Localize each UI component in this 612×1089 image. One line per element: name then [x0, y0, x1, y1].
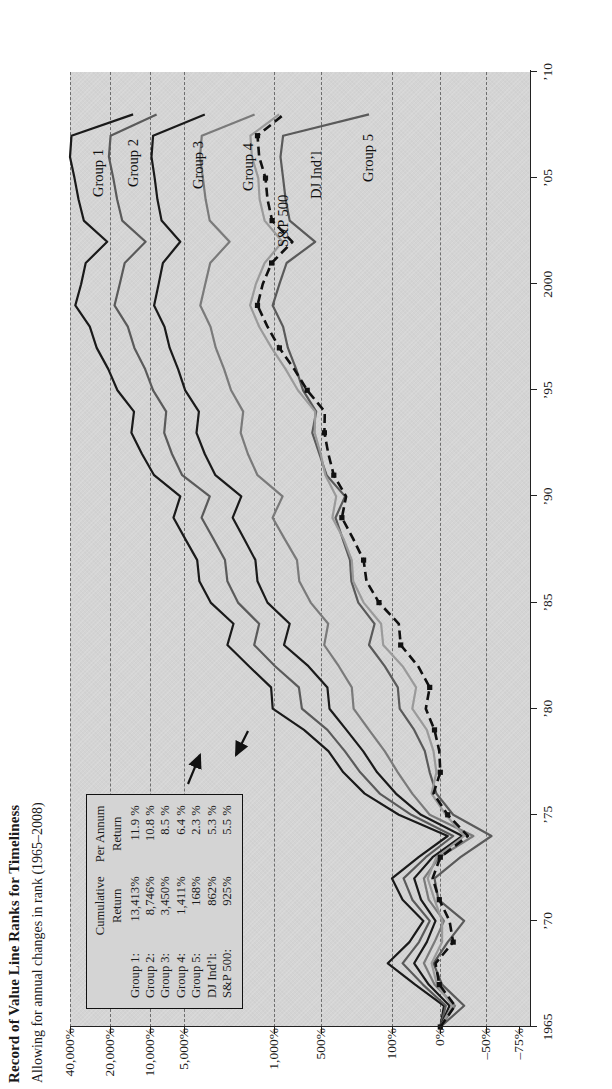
legend-row-cumulative: 3,450% — [158, 876, 173, 949]
legend-row-per-annum: 5.3 % — [205, 805, 220, 876]
x-tick-label-8: ’05 — [540, 169, 556, 187]
x-tick-7 — [530, 283, 537, 284]
legend-header-row-2: Return Return — [110, 805, 127, 998]
x-tick-2 — [530, 814, 537, 815]
x-tick-3 — [530, 708, 537, 709]
chart-stage: Record of Value Line Ranks for Timelines… — [0, 0, 612, 1089]
plot-area: Group 1Group 2Group 3Group 4S&P 500DJ In… — [70, 72, 530, 1027]
legend-row: Group 3:3,450%8.5 % — [158, 805, 173, 998]
y-axis-line — [70, 1026, 531, 1027]
legend-row-cumulative: 1,411% — [174, 876, 189, 949]
y-tick-label-6: 100% — [384, 1028, 400, 1060]
legend-header-cumulative-1: Cumulative — [93, 876, 110, 949]
legend-row-cumulative: 168% — [189, 876, 204, 949]
legend-row-per-annum: 6.4 % — [174, 805, 189, 876]
legend-row-name: Group 2: — [143, 949, 158, 998]
x-tick-4 — [530, 602, 537, 603]
x-tick-label-3: ’80 — [540, 700, 556, 718]
y-tick-label-8: –50% — [478, 1028, 494, 1060]
legend-header-cumulative-2: Return — [110, 876, 127, 949]
y-tick-label-5: 500% — [313, 1028, 329, 1060]
legend-box: Cumulative Per Annum Return Return Group… — [86, 794, 243, 1009]
y-tick-label-4: 1,000% — [266, 1028, 282, 1070]
legend-row-per-annum: 10.8 % — [143, 805, 158, 876]
legend-header-perannum-1: Per Annum — [93, 805, 110, 876]
y-tick-label-9: –75% — [511, 1028, 527, 1060]
x-tick-5 — [530, 495, 537, 496]
legend-row-cumulative: 8,746% — [143, 876, 158, 949]
page-subtitle: Allowing for annual changes in rank (196… — [30, 802, 46, 1083]
x-tick-6 — [530, 389, 537, 390]
legend-body: Group 1:13,413%11.9 %Group 2:8,746%10.8 … — [128, 805, 236, 998]
legend-row-name: Group 5: — [189, 949, 204, 998]
y-tick-label-3: 5,000% — [176, 1028, 192, 1070]
x-axis-line — [530, 70, 531, 1027]
y-tick-label-1: 20,000% — [102, 1028, 118, 1076]
legend-row-name: DJ Ind’l: — [205, 949, 220, 998]
legend-row-cumulative: 13,413% — [128, 876, 143, 949]
y-tick-label-7: 0% — [432, 1028, 448, 1046]
x-tick-label-6: ’95 — [540, 381, 556, 399]
x-tick-label-2: ’75 — [540, 806, 556, 824]
legend-row: DJ Ind’l:862%5.3 % — [205, 805, 220, 998]
x-tick-label-4: ’85 — [540, 594, 556, 612]
legend-row-per-annum: 2.3 % — [189, 805, 204, 876]
x-tick-9 — [530, 71, 537, 72]
legend-row-per-annum: 11.9 % — [128, 805, 143, 876]
x-tick-label-1: ’70 — [540, 912, 556, 930]
legend-row-cumulative: 862% — [205, 876, 220, 949]
x-tick-8 — [530, 177, 537, 178]
legend-row-cumulative: 925% — [220, 876, 235, 949]
x-tick-label-7: 2000 — [540, 271, 556, 298]
legend-row-name: Group 4: — [174, 949, 189, 998]
legend-header-row-1: Cumulative Per Annum — [93, 805, 110, 998]
legend-header-perannum-2: Return — [110, 805, 127, 876]
legend-row-per-annum: 5.5 % — [220, 805, 235, 876]
legend-table: Cumulative Per Annum Return Return Group… — [93, 805, 235, 998]
legend-row: Group 4:1,411%6.4 % — [174, 805, 189, 998]
x-tick-1 — [530, 920, 537, 921]
legend-row-name: S&P 500: — [220, 949, 235, 998]
legend-row: Group 5:168%2.3 % — [189, 805, 204, 998]
x-tick-label-5: ’90 — [540, 487, 556, 505]
x-tick-0 — [530, 1026, 537, 1027]
legend-row: Group 2:8,746%10.8 % — [143, 805, 158, 998]
y-tick-label-2: 10,000% — [142, 1028, 158, 1076]
legend-row: S&P 500:925%5.5 % — [220, 805, 235, 998]
x-tick-label-9: ’10 — [540, 63, 556, 81]
legend-row-per-annum: 8.5 % — [158, 805, 173, 876]
legend-row-name: Group 1: — [128, 949, 143, 998]
legend-header-blank — [93, 949, 110, 998]
y-tick-label-0: 40,000% — [62, 1028, 78, 1076]
legend-row: Group 1:13,413%11.9 % — [128, 805, 143, 998]
page-title: Record of Value Line Ranks for Timelines… — [6, 805, 23, 1083]
legend-header-blank-2 — [110, 949, 127, 998]
legend-row-name: Group 3: — [158, 949, 173, 998]
x-tick-label-0: 1965 — [540, 1014, 556, 1041]
